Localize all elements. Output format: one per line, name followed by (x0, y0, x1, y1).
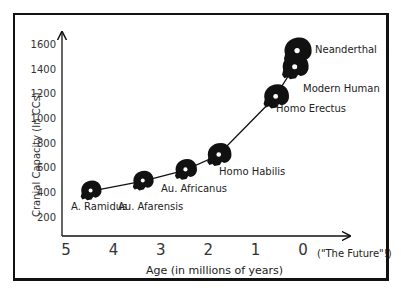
x-tick-annotation: ("The Future"!) (317, 248, 392, 259)
cranial-capacity-chart: 2004006008001000120014001600 543210 ("Th… (0, 0, 401, 296)
skull-icon (284, 37, 312, 63)
point-label: Homo Habilis (219, 166, 285, 177)
x-tick-label: 3 (156, 241, 166, 259)
y-tick-label: 1400 (31, 64, 56, 75)
skull-icon (133, 171, 154, 191)
x-tick-labels: 543210 (61, 241, 308, 259)
skull-icon (175, 159, 197, 180)
y-axis-label: Cranial Capacity (In CCs) (31, 92, 42, 217)
y-tick-label: 1600 (31, 39, 56, 50)
point-label: Homo Erectus (276, 103, 346, 114)
x-tick-label: 0 (298, 241, 308, 259)
x-tick-label: 2 (203, 241, 213, 259)
x-tick-label: 1 (251, 241, 261, 259)
skull-icon (207, 143, 231, 166)
skull-icon (81, 181, 102, 201)
x-tick-label: 5 (61, 241, 71, 259)
point-label: Au. Afarensis (118, 201, 183, 212)
point-label: Au. Africanus (161, 183, 227, 194)
point-label: Neanderthal (315, 44, 377, 55)
x-tick-label: 4 (109, 241, 119, 259)
x-axis-label: Age (in millions of years) (146, 264, 283, 277)
point-label: Modern Human (303, 83, 380, 94)
